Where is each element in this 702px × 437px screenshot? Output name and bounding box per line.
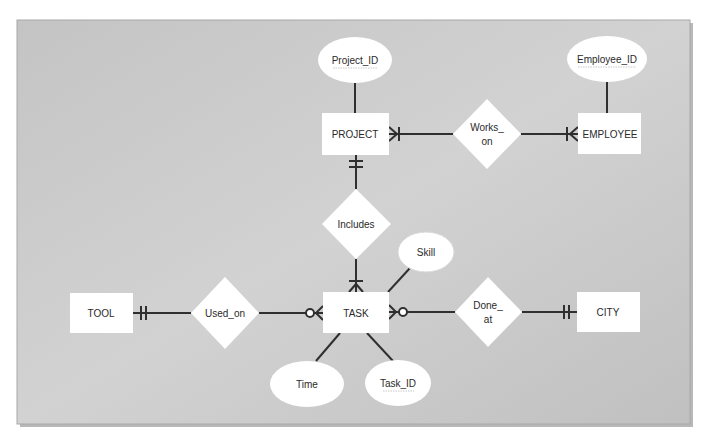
entity-tool[interactable]: TOOL [70, 293, 133, 333]
relationship-label-line1: Done_ [473, 300, 503, 311]
attribute-task-id[interactable]: Task_ID [365, 360, 431, 406]
er-diagram-svg: Project_ID Employee_ID Skill Time Task_I… [0, 0, 702, 437]
entity-label: TASK [343, 308, 369, 319]
relationship-label: Includes [337, 219, 374, 230]
attribute-label: Time [296, 379, 318, 390]
attribute-time[interactable]: Time [270, 361, 344, 407]
entity-employee[interactable]: EMPLOYEE [578, 113, 641, 154]
attribute-label: Skill [417, 247, 435, 258]
attribute-label: Task_ID [380, 378, 416, 389]
relationship-label-line2: at [484, 314, 493, 325]
attribute-label: Employee_ID [577, 54, 637, 65]
attribute-employee-id[interactable]: Employee_ID [567, 36, 647, 82]
er-diagram: Project_ID Employee_ID Skill Time Task_I… [0, 0, 702, 437]
attribute-skill[interactable]: Skill [398, 232, 454, 272]
attribute-label: Project_ID [332, 55, 379, 66]
entity-label: PROJECT [332, 129, 379, 140]
entity-label: EMPLOYEE [582, 129, 637, 140]
relationship-label-line1: Works_ [470, 122, 504, 133]
attribute-project-id[interactable]: Project_ID [318, 37, 392, 83]
entity-label: CITY [597, 307, 620, 318]
entity-project[interactable]: PROJECT [322, 113, 389, 155]
entity-task[interactable]: TASK [323, 292, 389, 333]
relationship-label: Used_on [205, 308, 245, 319]
entity-city[interactable]: CITY [577, 292, 640, 332]
relationship-label-line2: on [481, 136, 492, 147]
entity-label: TOOL [87, 308, 114, 319]
